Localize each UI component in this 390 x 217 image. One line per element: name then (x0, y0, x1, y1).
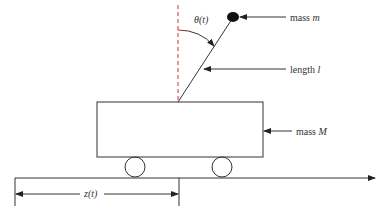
wheel-right (212, 157, 232, 177)
mass-m-label: mass m (290, 12, 320, 23)
position-label: z(t) (83, 188, 98, 200)
pendulum-cart-diagram: θ(t) mass m length l mass M z(t) (0, 0, 390, 217)
angle-arc (178, 30, 214, 46)
length-label: length l (290, 64, 321, 75)
pendulum-mass (227, 12, 239, 22)
mass-M-label: mass M (296, 126, 328, 137)
pendulum-rod (178, 19, 232, 102)
cart-body (97, 102, 263, 157)
theta-label: θ(t) (194, 14, 209, 26)
wheel-left (125, 157, 145, 177)
